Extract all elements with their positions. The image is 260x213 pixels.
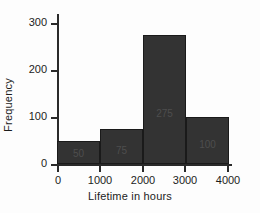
y-tick-200: 200 <box>51 70 57 72</box>
x-tick-1000: 1000 <box>99 166 101 172</box>
x-axis-line <box>57 164 232 166</box>
x-tick-label-1000: 1000 <box>88 174 112 186</box>
histogram-bar: 100 <box>186 117 229 164</box>
y-tick-label-0: 0 <box>41 157 47 169</box>
x-tick-4000: 4000 <box>227 166 229 172</box>
histogram-chart: Frequency 0 100 200 300 0 1000 2000 3000 <box>0 0 260 213</box>
y-tick-100: 100 <box>51 117 57 119</box>
y-axis-title: Frequency <box>2 50 14 160</box>
bar-value-label: 50 <box>73 148 84 159</box>
histogram-bar: 275 <box>143 35 186 164</box>
y-tick-300: 300 <box>51 23 57 25</box>
x-tick-0: 0 <box>57 166 59 172</box>
x-tick-label-2000: 2000 <box>131 174 155 186</box>
x-axis-title: Lifetime in hours <box>0 190 260 202</box>
x-tick-label-3000: 3000 <box>173 174 197 186</box>
bar-value-label: 75 <box>116 145 127 156</box>
x-tick-label-0: 0 <box>55 174 61 186</box>
histogram-bar: 50 <box>57 141 100 164</box>
plot-area: 0 100 200 300 0 1000 2000 3000 4000 50 <box>57 14 232 166</box>
bar-value-label: 100 <box>199 139 216 150</box>
x-tick-3000: 3000 <box>184 166 186 172</box>
y-tick-label-100: 100 <box>29 110 47 122</box>
bar-value-label: 275 <box>156 108 173 119</box>
y-tick-label-200: 200 <box>29 63 47 75</box>
histogram-bar: 75 <box>100 129 143 164</box>
x-tick-2000: 2000 <box>142 166 144 172</box>
y-tick-label-300: 300 <box>29 16 47 28</box>
x-tick-label-4000: 4000 <box>216 174 240 186</box>
